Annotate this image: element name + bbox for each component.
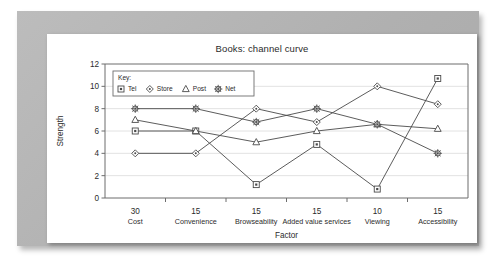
legend-title: Key: [118, 74, 131, 82]
data-point-store-5 [434, 101, 441, 108]
data-point-tel-0 [132, 128, 138, 134]
data-point-store-1 [192, 150, 199, 157]
legend-label-post: Post [193, 85, 206, 92]
chart-plot-area: 024681012 30Cost15Convenience15Browseabi… [47, 34, 477, 243]
x-axis-tick-weight: 15 [191, 207, 201, 216]
y-axis-ticks-group: 024681012 [90, 60, 105, 203]
line-chart-svg: 024681012 30Cost15Convenience15Browseabi… [47, 34, 477, 243]
data-point-net-1 [192, 104, 200, 112]
data-point-store-0 [132, 150, 139, 157]
x-axis-tick-label: Added value services [283, 217, 352, 226]
data-point-store-2 [253, 105, 260, 112]
x-axis-tick-label: Convenience [175, 217, 217, 226]
x-axis-ticks-group: 30Cost15Convenience15Browseability15Adde… [128, 198, 458, 226]
data-point-net-2 [252, 118, 260, 126]
x-axis-tick-label: Cost [128, 217, 143, 226]
legend-label-store: Store [157, 85, 173, 92]
y-axis-tick-label: 8 [94, 105, 99, 114]
y-axis-tick-label: 2 [94, 172, 99, 181]
data-point-post-0 [132, 116, 139, 122]
data-point-net-3 [313, 104, 321, 112]
x-axis-tick-weight: 10 [373, 207, 383, 216]
legend-label-net: Net [225, 85, 235, 92]
legend-group[interactable]: Key:TelStorePostNet [113, 71, 254, 96]
x-axis-title: Factor [275, 231, 298, 240]
chart-mount-frame: Books: channel curve 024681012 30Cost15C… [17, 11, 479, 246]
x-axis-tick-weight: 15 [433, 207, 443, 216]
x-axis-tick-label: Accessibility [418, 217, 458, 226]
x-axis-tick-weight: 15 [312, 207, 322, 216]
screenshot-root: Books: channel curve 024681012 30Cost15C… [0, 0, 503, 265]
x-axis-tick-label: Viewing [365, 217, 390, 226]
x-axis-tick-weight: 15 [252, 207, 262, 216]
data-point-tel-5 [435, 76, 441, 82]
data-point-net-5 [434, 149, 442, 157]
legend-label-tel: Tel [128, 85, 137, 92]
data-point-tel-2 [253, 182, 259, 188]
data-point-net-0 [131, 104, 139, 112]
x-axis-tick-weight: 30 [131, 207, 141, 216]
y-axis-tick-label: 10 [90, 82, 100, 91]
data-point-tel-3 [314, 141, 320, 147]
y-axis-tick-label: 0 [94, 194, 99, 203]
chart-card: Books: channel curve 024681012 30Cost15C… [47, 34, 477, 243]
legend-marker-net [214, 85, 222, 93]
y-axis-title: Strength [56, 115, 65, 146]
y-axis-tick-label: 4 [94, 149, 99, 158]
data-point-net-4 [373, 120, 381, 128]
x-axis-tick-label: Browseability [235, 217, 278, 226]
data-point-store-3 [313, 119, 320, 126]
data-point-store-4 [374, 83, 381, 90]
y-axis-tick-label: 6 [94, 127, 99, 136]
data-point-tel-4 [374, 186, 380, 192]
legend-marker-tel [118, 86, 124, 92]
y-axis-tick-label: 12 [90, 60, 100, 69]
